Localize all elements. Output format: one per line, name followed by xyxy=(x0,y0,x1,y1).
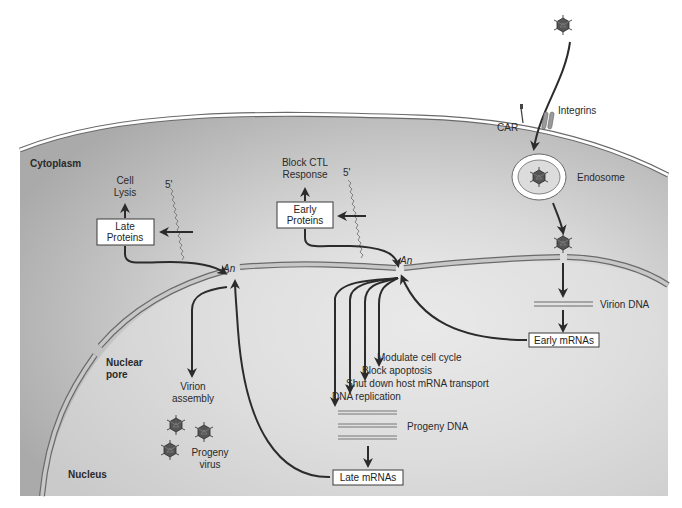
nuclear-pore-label-line1: Nuclear xyxy=(106,357,143,368)
virion-dna-label: Virion DNA xyxy=(600,299,650,310)
late-proteins-label-line1: Late xyxy=(115,221,135,232)
nuclear-pore-label-line2: pore xyxy=(106,369,128,380)
car-label: CAR xyxy=(497,122,518,133)
early-five-prime-label: 5' xyxy=(343,167,351,178)
virion-assembly-label-line2: assembly xyxy=(172,393,214,404)
block-ctl-label-line1: Block CTL xyxy=(282,157,329,168)
cell-lysis-label-line2: Lysis xyxy=(114,187,136,198)
progeny-dna-label: Progeny DNA xyxy=(407,421,468,432)
early-function-block-apoptosis: Block apoptosis xyxy=(362,365,432,376)
early-function-shut-down-host-transport: Shut down host mRNA transport xyxy=(346,378,489,389)
early-function-dna-replication: DNA replication xyxy=(332,391,401,402)
cell-lysis-label-line1: Cell xyxy=(116,175,133,186)
block-ctl-label-line2: Response xyxy=(282,169,327,180)
endosome-label: Endosome xyxy=(577,172,625,183)
late-mrnas-label: Late mRNAs xyxy=(340,472,397,483)
virion-assembly-label-line1: Virion xyxy=(180,381,205,392)
incoming-virus-icon xyxy=(554,15,572,35)
late-five-prime-label: 5' xyxy=(165,179,173,190)
endosome xyxy=(512,154,566,200)
progeny-virus-label-line2: virus xyxy=(199,459,220,470)
adenovirus-life-cycle-diagram: Cytoplasm Nuclear pore Nucleus CAR Integ… xyxy=(0,0,682,508)
cytoplasm-label: Cytoplasm xyxy=(30,158,81,169)
early-poly-a-label: An xyxy=(399,255,413,266)
integrins-label: Integrins xyxy=(558,105,596,116)
late-proteins-label-line2: Proteins xyxy=(107,232,144,243)
progeny-virus-label-line1: Progeny xyxy=(191,447,228,458)
early-proteins-label-line1: Early xyxy=(294,204,317,215)
early-proteins-label-line2: Proteins xyxy=(287,215,324,226)
early-mrnas-label: Early mRNAs xyxy=(534,335,594,346)
nucleus-label: Nucleus xyxy=(68,469,107,480)
car-receptor-icon xyxy=(520,104,523,123)
early-function-modulate-cell-cycle: Modulate cell cycle xyxy=(377,352,462,363)
